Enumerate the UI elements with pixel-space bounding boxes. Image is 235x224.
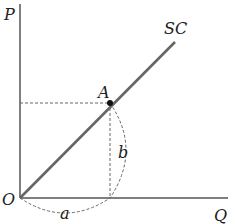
q-axis-label: Q [214, 206, 227, 224]
sc-curve-label: SC [164, 19, 187, 38]
sc-line [20, 42, 175, 198]
p-axis-label: P [3, 5, 15, 24]
supply-curve-diagram: P Q O SC A b a [0, 0, 235, 224]
segment-b-label: b [118, 143, 128, 162]
origin-label: O [2, 190, 15, 209]
segment-a-label: a [60, 204, 70, 223]
point-a-label: A [96, 83, 110, 102]
